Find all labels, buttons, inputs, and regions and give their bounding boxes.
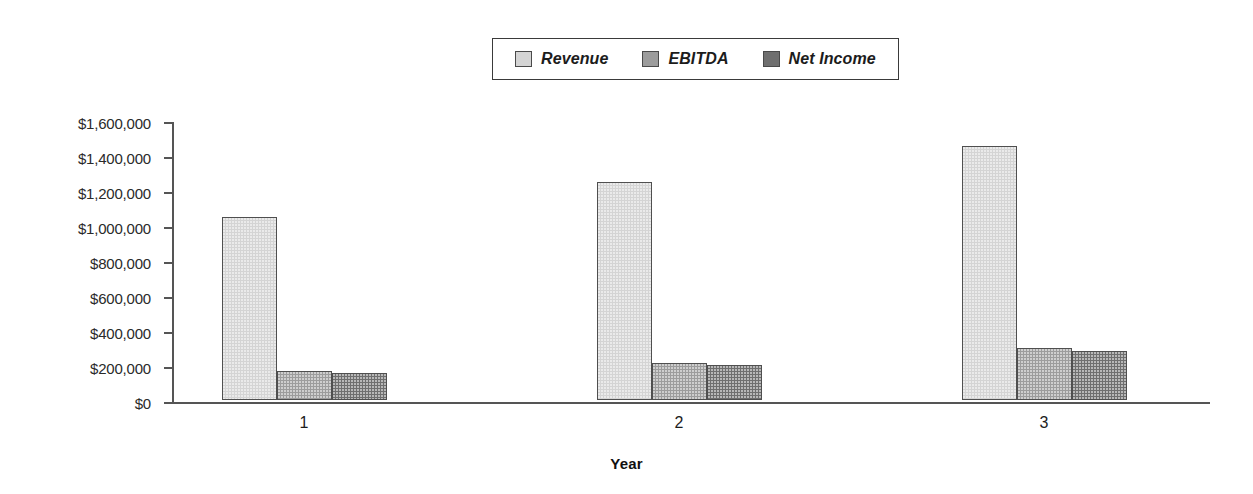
bar-revenue-year-1 <box>222 217 277 400</box>
y-axis-tick-label: $1,000,000 <box>78 219 151 236</box>
y-axis-tick-label: $1,200,000 <box>78 184 151 201</box>
y-axis-tick: $0 <box>164 402 173 404</box>
y-axis-tick-label: $1,600,000 <box>78 114 151 131</box>
plot-area: $1,600,000$1,400,000$1,200,000$1,000,000… <box>172 122 1210 402</box>
bar-group-year-2 <box>597 120 762 400</box>
x-axis-label-2: 2 <box>596 414 762 432</box>
y-axis-tick-label: $400,000 <box>90 324 151 341</box>
y-axis-tick-label: $1,400,000 <box>78 149 151 166</box>
y-axis-tick: $1,200,000 <box>164 192 173 194</box>
bar-chart: Revenue EBITDA Net Income $1,600,000$1,4… <box>0 0 1253 494</box>
y-axis-tick-label: $0 <box>135 394 151 411</box>
x-axis-label-3: 3 <box>961 414 1127 432</box>
bar-ebitda-year-3 <box>1017 348 1072 400</box>
y-axis-tick: $200,000 <box>164 367 173 369</box>
y-axis-tick-label: $600,000 <box>90 289 151 306</box>
x-axis-line <box>172 402 1210 404</box>
legend-entry-net-income: Net Income <box>763 50 876 68</box>
legend-swatch-net-income <box>763 51 780 67</box>
bar-net-income-year-2 <box>707 365 762 400</box>
legend-entry-ebitda: EBITDA <box>642 50 728 68</box>
y-axis-tick-label: $200,000 <box>90 359 151 376</box>
y-axis-tick: $600,000 <box>164 297 173 299</box>
legend-label-ebitda: EBITDA <box>668 50 728 68</box>
bar-revenue-year-3 <box>962 146 1017 400</box>
y-axis-tick: $800,000 <box>164 262 173 264</box>
bar-group-year-1 <box>222 120 387 400</box>
legend-entry-revenue: Revenue <box>515 50 608 68</box>
x-axis-label-1: 1 <box>221 414 387 432</box>
y-axis-tick: $1,400,000 <box>164 157 173 159</box>
legend-label-net-income: Net Income <box>789 50 876 68</box>
y-axis-tick: $1,600,000 <box>164 122 173 124</box>
bar-revenue-year-2 <box>597 182 652 400</box>
y-axis-tick: $1,000,000 <box>164 227 173 229</box>
bar-net-income-year-1 <box>332 373 387 400</box>
bar-group-year-3 <box>962 120 1127 400</box>
bar-ebitda-year-2 <box>652 363 707 400</box>
legend-swatch-revenue <box>515 51 532 67</box>
bar-ebitda-year-1 <box>277 371 332 400</box>
y-axis-tick-label: $800,000 <box>90 254 151 271</box>
legend-swatch-ebitda <box>642 51 659 67</box>
legend-label-revenue: Revenue <box>541 50 608 68</box>
bar-net-income-year-3 <box>1072 351 1127 400</box>
chart-legend: Revenue EBITDA Net Income <box>492 38 899 80</box>
x-axis-title: Year <box>0 455 1253 472</box>
y-axis-tick: $400,000 <box>164 332 173 334</box>
